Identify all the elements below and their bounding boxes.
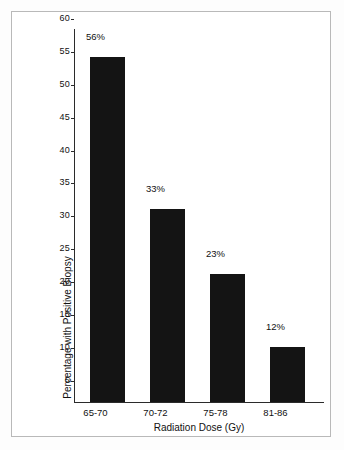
figure-canvas: 60555045403530252015105 56%33%23%12% 65-…: [0, 0, 344, 450]
y-axis-tick-label: 45: [44, 113, 70, 122]
bar: [270, 347, 305, 402]
x-axis-title: Radiation Dose (Gy): [74, 422, 324, 433]
x-axis-category-label: 65-70: [68, 408, 123, 418]
figure-frame: 60555045403530252015105 56%33%23%12% 65-…: [11, 11, 331, 437]
y-axis-title-wrap: Percentage with Positive Biopsy: [34, 122, 48, 312]
bar-series: [74, 29, 324, 402]
x-axis-category-label: 75-78: [188, 408, 243, 418]
x-axis-category-label: 81-86: [248, 408, 303, 418]
y-axis-tick-label: 50: [44, 80, 70, 89]
y-axis-tick-label: 55: [44, 47, 70, 56]
bar-value-label: 12%: [250, 322, 301, 332]
bar-value-label: 23%: [190, 249, 241, 259]
bar: [210, 274, 245, 402]
bar: [90, 57, 125, 402]
bar-value-label: 56%: [70, 32, 121, 42]
x-axis-category-label: 70-72: [128, 408, 183, 418]
y-axis-tick-mark: [71, 19, 74, 20]
y-axis-title: Percentage with Positive Biopsy: [62, 233, 73, 423]
bar: [150, 209, 185, 402]
y-axis-tick-label: 60: [44, 14, 70, 23]
bar-value-label: 33%: [130, 184, 181, 194]
x-axis-line: [74, 402, 324, 403]
